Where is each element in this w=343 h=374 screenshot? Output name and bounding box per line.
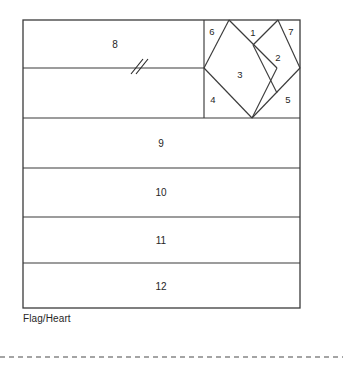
piece-label-12: 12 — [155, 281, 167, 292]
piece-label-9: 9 — [158, 138, 164, 149]
piece-label-10: 10 — [155, 187, 167, 198]
piece-label-1: 1 — [250, 27, 255, 38]
piece-label-5: 5 — [285, 94, 290, 105]
piece-label-7: 7 — [288, 26, 293, 37]
pattern-diagram: 6 1 7 2 3 4 5 8 9 10 11 12 Flag/Heart — [0, 0, 343, 374]
piece-label-8: 8 — [112, 39, 118, 50]
piece-label-2: 2 — [275, 52, 280, 63]
piece-label-11: 11 — [156, 235, 167, 246]
piece-label-4: 4 — [210, 94, 215, 105]
piece-label-6: 6 — [209, 26, 214, 37]
piece-label-3: 3 — [237, 69, 242, 80]
diagram-caption: Flag/Heart — [23, 313, 71, 324]
